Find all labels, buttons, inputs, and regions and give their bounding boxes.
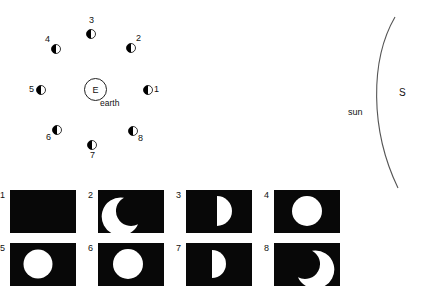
moon-full-icon (10, 243, 76, 286)
phase-number-8: 8 (264, 243, 269, 253)
moon-new-icon (10, 190, 76, 233)
earth-marker: E earth (84, 78, 107, 101)
moon-half-icon (143, 85, 153, 95)
earth-label: earth (100, 98, 119, 108)
moon-waxing-crescent-icon (98, 190, 164, 233)
phase-cell-8: 8 (264, 243, 344, 288)
phase-cell-6: 6 (88, 243, 168, 288)
orbit-moon-label-1: 1 (154, 85, 159, 94)
orbit-moon-label-4: 4 (45, 35, 50, 44)
sun-region: sun S (320, 0, 429, 192)
phase-number-2: 2 (88, 190, 93, 200)
orbit-moon-label-3: 3 (89, 16, 94, 25)
orbit-moon-label-7: 7 (90, 151, 95, 160)
phase-number-5: 5 (0, 243, 5, 253)
orbit-moon-label-8: 8 (138, 134, 143, 143)
moon-waning-gibbous-icon (98, 243, 164, 286)
moon-half-icon (86, 29, 96, 39)
orbit-moon-label-5: 5 (29, 85, 34, 94)
orbit-moon-label-6: 6 (46, 133, 51, 142)
phase-image-7 (186, 243, 252, 286)
moon-half-icon (52, 125, 62, 135)
phase-image-3 (186, 190, 252, 233)
phase-panel-grid: 1 2 3 (0, 190, 340, 288)
phase-cell-3: 3 (176, 190, 256, 235)
phase-image-2 (98, 190, 164, 233)
phase-number-4: 4 (264, 190, 269, 200)
moon-half-icon (36, 85, 46, 95)
earth-letter: E (92, 85, 98, 95)
moon-phase-diagram: E earth 1 2 3 (0, 0, 429, 291)
sun-letter: S (399, 87, 406, 98)
phase-number-7: 7 (176, 243, 181, 253)
sun-limb-arc (320, 0, 429, 192)
phase-cell-1: 1 (0, 190, 80, 235)
phase-cell-2: 2 (88, 190, 168, 235)
phase-image-1 (10, 190, 76, 233)
phase-image-8 (274, 243, 340, 286)
phase-image-4 (274, 190, 340, 233)
phase-cell-7: 7 (176, 243, 256, 288)
moon-waning-crescent-icon (274, 243, 340, 286)
phase-image-5 (10, 243, 76, 286)
moon-half-icon (51, 44, 61, 54)
phase-number-3: 3 (176, 190, 181, 200)
orbit-diagram: E earth 1 2 3 (0, 0, 215, 180)
phase-number-1: 1 (0, 190, 5, 200)
moon-half-icon (128, 126, 138, 136)
orbit-moon-label-2: 2 (136, 34, 141, 43)
sun-label: sun (348, 107, 363, 117)
moon-half-icon (126, 43, 136, 53)
moon-first-quarter-icon (186, 190, 252, 233)
moon-half-icon (87, 140, 97, 150)
moon-waxing-gibbous-icon (274, 190, 340, 233)
phase-number-6: 6 (88, 243, 93, 253)
phase-image-6 (98, 243, 164, 286)
phase-cell-5: 5 (0, 243, 80, 288)
moon-last-quarter-icon (186, 243, 252, 286)
phase-cell-4: 4 (264, 190, 344, 235)
